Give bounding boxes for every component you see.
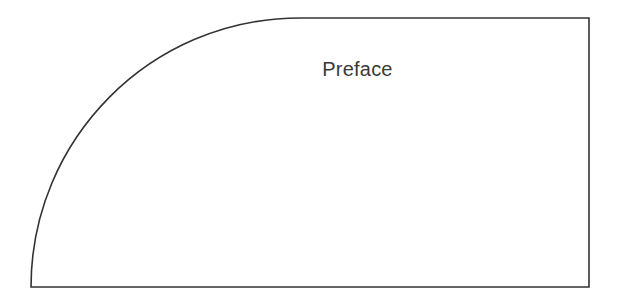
diagram-title: Preface — [300, 58, 415, 81]
rounded-shape — [0, 0, 617, 302]
